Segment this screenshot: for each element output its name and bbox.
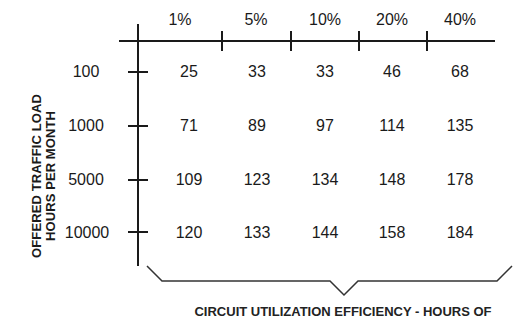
column-header-1pct: 1% (168, 11, 191, 29)
table-cell: 68 (451, 63, 469, 81)
table-cell: 109 (176, 171, 203, 189)
table-cell: 123 (244, 171, 271, 189)
table-cell: 46 (383, 63, 401, 81)
row-header-5000: 5000 (68, 171, 104, 189)
table-cell: 120 (176, 224, 203, 242)
column-header-20pct: 20% (376, 11, 408, 29)
y-axis-label-line2: HOURS PER MONTH (44, 66, 58, 286)
table-cell: 135 (447, 117, 474, 135)
table-cell: 178 (447, 171, 474, 189)
row-header-100: 100 (73, 63, 100, 81)
table-cell: 134 (312, 171, 339, 189)
table-cell: 97 (316, 117, 334, 135)
table-cell: 133 (244, 224, 271, 242)
table-cell: 89 (248, 117, 266, 135)
column-group-bracket (147, 266, 512, 295)
row-header-10000: 10000 (65, 224, 110, 242)
y-axis-label: OFFERED TRAFFIC LOAD HOURS PER MONTH (30, 66, 58, 286)
table-cell: 33 (248, 63, 266, 81)
column-header-5pct: 5% (244, 11, 267, 29)
x-axis-label: CIRCUIT UTILIZATION EFFICIENCY - HOURS O… (194, 304, 491, 319)
table-cell: 158 (379, 224, 406, 242)
table-cell: 148 (379, 171, 406, 189)
table-cell: 25 (180, 63, 198, 81)
table-cell: 33 (316, 63, 334, 81)
row-header-1000: 1000 (68, 117, 104, 135)
column-header-40pct: 40% (444, 11, 476, 29)
table-cell: 144 (312, 224, 339, 242)
table-cell: 114 (379, 117, 405, 135)
y-axis-label-line1: OFFERED TRAFFIC LOAD (30, 66, 44, 286)
column-header-10pct: 10% (309, 11, 341, 29)
table-cell: 184 (447, 224, 474, 242)
table-cell: 71 (180, 117, 198, 135)
